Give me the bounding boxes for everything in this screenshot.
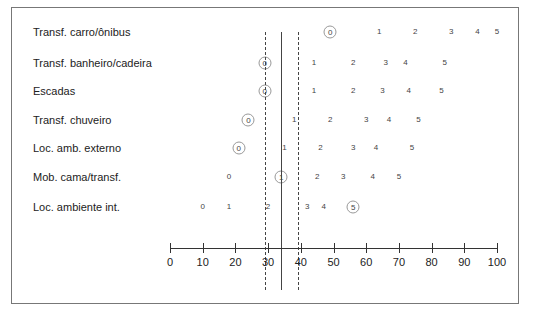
interval-line xyxy=(265,32,266,290)
score-level: 2 xyxy=(266,203,270,211)
axis-tick xyxy=(170,243,171,253)
axis-tick-label: 40 xyxy=(295,256,307,268)
axis-tick xyxy=(203,243,204,253)
score-level: 3 xyxy=(364,116,368,124)
axis-tick xyxy=(464,243,465,253)
row-label: Transf. chuveiro xyxy=(33,114,111,126)
axis-tick-label: 10 xyxy=(197,256,209,268)
axis-tick-label: 80 xyxy=(425,256,437,268)
score-level: 1 xyxy=(312,59,316,67)
axis-tick xyxy=(366,243,367,253)
row-label: Loc. amb. externo xyxy=(33,142,121,154)
circled-score-level: 0 xyxy=(232,142,245,155)
axis-tick xyxy=(497,243,498,253)
score-level: 4 xyxy=(374,144,378,152)
axis-tick-label: 30 xyxy=(262,256,274,268)
score-level: 3 xyxy=(351,144,355,152)
axis-tick-label: 0 xyxy=(167,256,173,268)
score-level: 5 xyxy=(439,87,443,95)
score-level: 4 xyxy=(371,173,375,181)
score-level: 1 xyxy=(377,28,381,36)
score-level: 1 xyxy=(312,87,316,95)
score-level: 4 xyxy=(475,28,479,36)
score-level: 3 xyxy=(341,173,345,181)
axis-tick xyxy=(399,243,400,253)
score-level: 3 xyxy=(384,59,388,67)
score-level: 3 xyxy=(449,28,453,36)
score-level: 1 xyxy=(282,144,286,152)
score-level: 4 xyxy=(406,87,410,95)
score-level: 4 xyxy=(403,59,407,67)
axis-tick xyxy=(235,243,236,253)
score-level: 1 xyxy=(227,203,231,211)
score-level: 2 xyxy=(351,87,355,95)
row-label: Transf. carro/ônibus xyxy=(33,26,130,38)
score-level: 0 xyxy=(200,203,204,211)
score-level: 2 xyxy=(351,59,355,67)
score-level: 5 xyxy=(442,59,446,67)
score-level: 0 xyxy=(227,173,231,181)
score-level: 5 xyxy=(397,173,401,181)
circled-score-level: 0 xyxy=(324,26,337,39)
score-level: 5 xyxy=(410,144,414,152)
axis-tick-label: 20 xyxy=(229,256,241,268)
row-label: Escadas xyxy=(33,85,75,97)
score-level: 4 xyxy=(387,116,391,124)
axis-tick xyxy=(268,243,269,253)
score-level: 2 xyxy=(318,144,322,152)
score-level: 2 xyxy=(413,28,417,36)
axis-tick-label: 60 xyxy=(360,256,372,268)
circled-score-level: 0 xyxy=(242,114,255,127)
score-level: 3 xyxy=(380,87,384,95)
axis-tick-label: 100 xyxy=(488,256,506,268)
interval-line xyxy=(298,32,299,290)
score-level: 3 xyxy=(305,203,309,211)
mean-line xyxy=(281,32,282,290)
score-level: 4 xyxy=(321,203,325,211)
score-level: 1 xyxy=(292,116,296,124)
axis-tick xyxy=(301,243,302,253)
circled-score-level: 5 xyxy=(347,201,360,214)
axis-tick xyxy=(432,243,433,253)
axis-tick-label: 50 xyxy=(327,256,339,268)
score-level: 5 xyxy=(495,28,499,36)
row-label: Transf. banheiro/cadeira xyxy=(33,57,152,69)
row-label: Mob. cama/transf. xyxy=(33,171,121,183)
score-level: 2 xyxy=(315,173,319,181)
axis-tick-label: 90 xyxy=(458,256,470,268)
axis-tick-label: 70 xyxy=(393,256,405,268)
row-label: Loc. ambiente int. xyxy=(33,201,120,213)
score-level: 5 xyxy=(416,116,420,124)
axis-tick xyxy=(334,243,335,253)
score-level: 2 xyxy=(328,116,332,124)
